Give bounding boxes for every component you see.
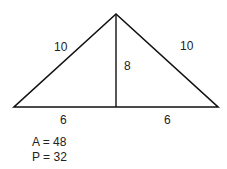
right-side-label: 10 bbox=[180, 40, 193, 52]
left-base-label: 6 bbox=[60, 114, 67, 126]
left-side-label: 10 bbox=[54, 41, 67, 53]
area-text: A = 48 bbox=[32, 136, 66, 148]
perimeter-text: P = 32 bbox=[32, 151, 67, 163]
right-base-label: 6 bbox=[164, 114, 171, 126]
height-label: 8 bbox=[124, 60, 131, 72]
